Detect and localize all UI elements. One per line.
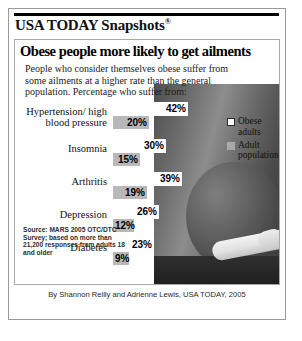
chart-panel: Obese people more likely to get ailments… <box>14 39 280 285</box>
usa-today-snapshot-graphic: USA TODAY Snapshots® Obese people more l… <box>8 8 286 320</box>
bar-value-label: 26% <box>137 205 157 218</box>
masthead-brand: USA TODAY Snapshots <box>15 17 165 33</box>
bar-value-label: 19% <box>125 186 145 199</box>
source-note: Source: MARS 2005 OTC/DTC Survey; based … <box>23 226 131 256</box>
chart-row-label: Depression <box>15 209 107 220</box>
chart-row-label: Arthritis <box>15 176 107 187</box>
bar-value-label: 30% <box>144 139 164 152</box>
chart-row-label: Insomnia <box>15 143 107 154</box>
registered-mark-icon: ® <box>165 17 171 26</box>
masthead-rule <box>14 13 279 16</box>
headline: Obese people more likely to get ailments <box>20 43 276 60</box>
chart-row-label: Hypertension/ high blood pressure <box>15 106 107 128</box>
masthead: USA TODAY Snapshots® <box>14 13 282 38</box>
deck-text: People who consider themselves obese suf… <box>25 63 235 98</box>
bar-value-label: 23% <box>132 238 152 251</box>
credit-line: By Shannon Reilly and Adrienne Lewis, US… <box>14 290 280 299</box>
bar-value-label: 42% <box>166 102 186 115</box>
bar-value-label: 20% <box>127 116 147 129</box>
masthead-title: USA TODAY Snapshots® <box>15 17 170 34</box>
bar-value-label: 15% <box>118 153 138 166</box>
bar-value-label: 39% <box>160 172 180 185</box>
